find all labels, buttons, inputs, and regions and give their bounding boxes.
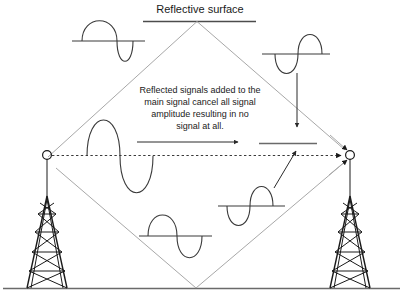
annotation-line-1: Reflected signals added to the [139, 85, 260, 95]
diagram-canvas: Reflective surface Reflected signals add… [0, 0, 403, 301]
annotation-line-2: main signal cancel all signal [144, 97, 256, 107]
reflective-surface-label: Reflective surface [156, 3, 243, 15]
annotation-line-4: signal at all. [176, 121, 224, 131]
multipath-cancellation-diagram: Reflective surface Reflected signals add… [0, 0, 403, 301]
annotation-line-3: amplitude resulting in no [151, 109, 249, 119]
